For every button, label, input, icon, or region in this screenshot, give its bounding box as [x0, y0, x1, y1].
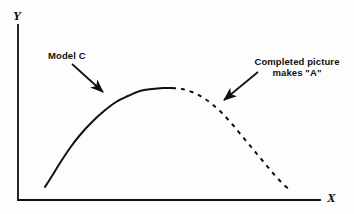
annotation-completed-picture: Completed picturemakes "A" — [244, 56, 350, 78]
model-c-arrow — [72, 64, 103, 92]
curve-dashed-segment — [172, 88, 290, 190]
annotation-completed-line-1: Completed picture — [254, 56, 339, 67]
x-axis-label: X — [327, 190, 336, 206]
annotation-model-c: Model C — [48, 50, 86, 61]
figure-container: Y X Model C Completed picturemakes "A" — [0, 0, 354, 214]
y-axis-label: Y — [13, 8, 21, 24]
curve-solid-segment — [45, 88, 172, 187]
curve-plot — [0, 0, 354, 214]
annotation-completed-line-2: makes "A" — [273, 67, 322, 78]
